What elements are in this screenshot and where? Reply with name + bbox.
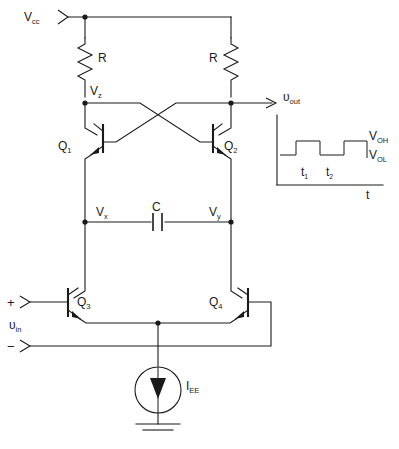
label-q1-sub: 1 xyxy=(67,146,71,155)
label-vcc-main: V xyxy=(24,10,32,24)
label-vz-main: V xyxy=(90,84,98,98)
q2-collector-lead xyxy=(213,124,222,131)
wire-vx-down-to-q3 xyxy=(74,222,85,298)
label-iee-sub: EE xyxy=(189,386,199,395)
label-voh-sub: OH xyxy=(377,136,388,145)
label-t1-sub: 1 xyxy=(304,173,308,180)
label-capacitor: C xyxy=(152,200,161,214)
waveform-square-wave-trace xyxy=(280,141,367,158)
q4-emitter-arrow xyxy=(235,311,244,319)
label-resistor-left: R xyxy=(98,51,107,65)
label-vz-sub: z xyxy=(98,91,102,100)
label-resistor-right: R xyxy=(209,51,218,65)
capacitor-row-group xyxy=(74,213,242,298)
label-t2: t2 xyxy=(326,165,333,180)
current-source-arrow xyxy=(150,378,166,399)
label-voh: VOH xyxy=(369,129,388,145)
label-q4-main: Q xyxy=(209,295,218,309)
label-q3: Q3 xyxy=(77,295,91,311)
transistor-q4-group xyxy=(20,288,271,352)
label-t1: t1 xyxy=(301,165,308,180)
wire-q1-emitter-down xyxy=(85,155,91,222)
q1-collector-lead xyxy=(94,124,103,131)
label-node-vz: Vz xyxy=(90,84,102,100)
label-vcc: Vcc xyxy=(24,10,40,26)
supply-rail-group xyxy=(58,10,231,38)
label-q1-main: Q xyxy=(58,139,67,153)
wire-q4-base-to-input-minus xyxy=(30,302,271,346)
q3-emitter-arrow xyxy=(72,311,81,319)
label-voh-main: V xyxy=(369,129,377,143)
wire-q2-collector xyxy=(219,103,231,135)
junction-vcc xyxy=(82,14,87,19)
q1-emitter-arrow xyxy=(90,147,99,155)
label-vol-main: V xyxy=(369,148,377,162)
label-vin-sub: in xyxy=(16,325,22,334)
wire-q2-emitter-down xyxy=(225,155,231,222)
wire-q4-emitter-to-tail xyxy=(158,319,236,323)
q3-collector-lead xyxy=(68,288,78,295)
label-vol-sub: OL xyxy=(377,155,387,164)
input-plus-terminal-arrow xyxy=(20,296,30,308)
label-vx-main: V xyxy=(96,205,104,219)
vcc-terminal-arrow xyxy=(58,10,68,24)
label-layer: Vcc R R Vz Q1 Q2 υout Vx C Vy Q3 Q4 + − … xyxy=(7,10,388,395)
label-input-plus: + xyxy=(7,295,15,310)
label-node-vy: Vy xyxy=(209,205,221,221)
label-q2-main: Q xyxy=(224,139,233,153)
label-vy-main: V xyxy=(209,205,217,219)
input-minus-terminal-arrow xyxy=(20,340,30,352)
label-q1: Q1 xyxy=(58,139,72,155)
label-q4: Q4 xyxy=(209,295,223,311)
label-vcc-sub: cc xyxy=(32,17,40,26)
label-q3-sub: 3 xyxy=(86,302,90,311)
label-vy-sub: y xyxy=(217,212,221,221)
label-iee: IEE xyxy=(186,379,199,395)
label-vout: υout xyxy=(283,90,301,106)
label-t2-sub: 2 xyxy=(329,173,333,180)
resistor-right-group xyxy=(224,38,238,97)
label-q3-main: Q xyxy=(77,295,86,309)
wire-vy-down-to-q4 xyxy=(231,222,242,298)
label-vol: VOL xyxy=(369,148,387,164)
q4-collector-lead xyxy=(238,288,248,295)
wire-q3-emitter-to-tail xyxy=(80,319,158,323)
label-vin: υin xyxy=(9,318,21,334)
label-vout-sub: out xyxy=(290,97,301,106)
collector-row-group xyxy=(82,98,276,142)
label-q4-sub: 4 xyxy=(218,302,222,311)
label-vx-sub: x xyxy=(104,212,108,221)
wire-q1-collector xyxy=(85,103,97,135)
resistor-right-zigzag xyxy=(224,38,238,97)
circuit-schematic-figure: Vcc R R Vz Q1 Q2 υout Vx C Vy Q3 Q4 + − … xyxy=(0,0,399,449)
label-q2: Q2 xyxy=(224,139,238,155)
wire-cross-couple-left-to-q2base xyxy=(85,103,213,142)
label-waveform-time-axis: t xyxy=(366,188,370,202)
label-q2-sub: 2 xyxy=(233,146,237,155)
wire-cross-couple-right-to-q1base xyxy=(103,103,231,142)
schematic-canvas: Vcc R R Vz Q1 Q2 υout Vx C Vy Q3 Q4 + − … xyxy=(0,0,399,449)
current-source-group xyxy=(135,320,181,430)
label-node-vx: Vx xyxy=(96,205,108,221)
label-input-minus: − xyxy=(7,339,15,354)
